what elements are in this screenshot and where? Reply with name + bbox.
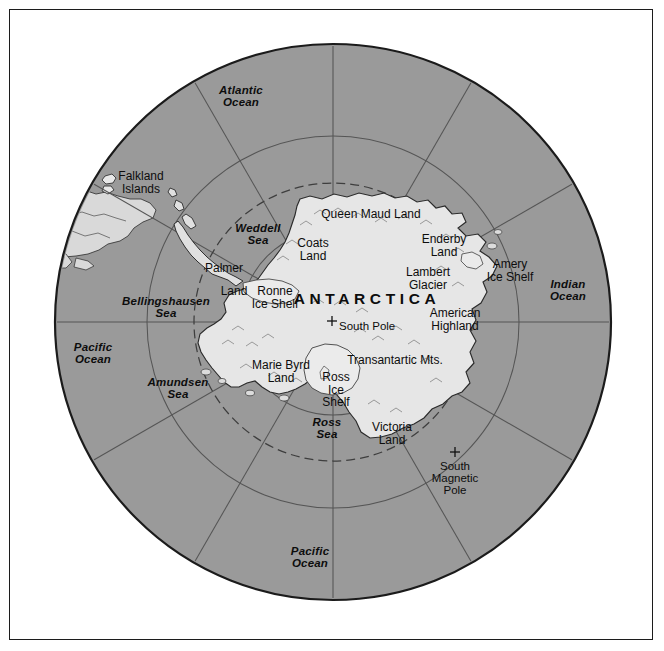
antarctica-map-figure: ANTARCTICA Atlantic Ocean Indian Ocean P…: [0, 0, 664, 651]
map-drawing-canvas: [0, 0, 664, 651]
